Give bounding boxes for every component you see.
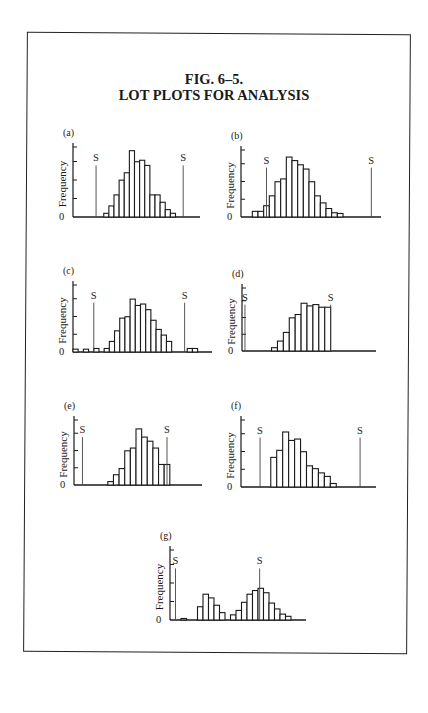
y-zero-label: 0 [59, 346, 64, 357]
histogram-bar [129, 151, 134, 217]
upper-spec-label: S [180, 152, 186, 163]
histogram-d: (d)Frequency0SS [225, 268, 380, 360]
histogram-bar [295, 439, 301, 487]
figure-title: LOT PLOTS FOR ANALYSIS [0, 86, 428, 104]
y-zero-label: 0 [227, 481, 232, 492]
histogram-bar [292, 161, 298, 217]
histogram-bar [275, 609, 281, 620]
histogram-bar [181, 619, 187, 621]
histogram-bar [124, 173, 129, 217]
histogram-bar [298, 165, 304, 217]
histogram-bar [231, 615, 237, 620]
histogram-bar [109, 206, 114, 217]
histogram-bar [313, 305, 319, 351]
lower-spec-label: S [173, 555, 179, 566]
histogram-bar [166, 341, 171, 352]
lower-spec-label: S [264, 155, 270, 166]
histogram-c: (c)Frequency0SS [56, 265, 216, 361]
histogram-bar [73, 349, 78, 352]
panel-label: (d) [232, 268, 244, 280]
histogram-bar [135, 305, 140, 352]
histogram-a: (a)Frequency0SS [54, 127, 204, 226]
upper-spec-label: S [368, 155, 374, 166]
lower-spec-label: S [242, 292, 248, 303]
histogram-g: (g)Frequency0SS [160, 530, 310, 629]
histogram-bar [315, 196, 321, 217]
histogram-bar [324, 476, 330, 487]
histogram-bar [214, 605, 220, 620]
histogram-bar [247, 594, 253, 620]
y-zero-label: 0 [228, 345, 233, 356]
histogram-bar [271, 457, 277, 487]
panel-label: (e) [64, 400, 75, 412]
upper-spec-label: S [328, 292, 334, 303]
histogram-bar [146, 310, 151, 352]
histogram-bar [272, 348, 278, 351]
histogram-bar [269, 603, 275, 620]
histogram-bar [153, 448, 159, 485]
histogram-bar [156, 329, 161, 352]
histogram-bar [283, 432, 289, 487]
histogram-bar [301, 303, 307, 351]
histogram-bar [275, 182, 281, 217]
histogram-bar [140, 160, 145, 217]
histogram-bar [119, 180, 124, 217]
histogram-bar [303, 169, 309, 217]
histogram-f: (f)Frequency0SS [225, 400, 380, 496]
histogram-bar [326, 209, 332, 217]
upper-spec-label: S [257, 555, 263, 566]
panel-label: (c) [63, 265, 74, 277]
histogram-bar [159, 464, 165, 485]
panel-label: (a) [63, 127, 74, 139]
histogram-bar [307, 306, 313, 351]
y-zero-label: 0 [60, 479, 65, 490]
histogram-bar [277, 341, 283, 351]
upper-spec-label: S [357, 425, 363, 436]
y-zero-label: 0 [59, 211, 64, 222]
panel-label: (g) [160, 530, 172, 542]
histogram-bar [115, 331, 120, 352]
y-axis-label: Frequency [56, 160, 68, 207]
histogram-bar [220, 613, 226, 620]
y-axis-label: Frequency [56, 297, 68, 344]
histogram-bar [147, 441, 153, 485]
y-axis-label: Frequency [57, 431, 69, 478]
histogram-e: (e)Frequency0SS [56, 400, 206, 494]
histogram-bar [337, 213, 343, 217]
histogram-bar [319, 307, 325, 351]
histogram-bar [301, 452, 307, 487]
histogram-bar [150, 195, 155, 217]
histogram-bar [320, 203, 326, 217]
lower-spec-label: S [79, 424, 85, 435]
lower-spec-label: S [91, 290, 97, 301]
histogram-bar [119, 469, 125, 485]
histogram-bar [286, 157, 292, 217]
histogram-bar [104, 213, 109, 217]
histogram-bar [155, 195, 160, 217]
histogram-bar [307, 466, 313, 487]
histogram-bar [170, 213, 175, 217]
histogram-bar [252, 211, 258, 217]
histogram-bar [145, 165, 150, 217]
histogram-bar [114, 195, 119, 217]
histogram-bar [108, 482, 114, 485]
panel-label: (b) [231, 130, 243, 142]
y-axis-label: Frequency [224, 162, 236, 209]
histogram-bar [295, 315, 301, 351]
panel-label: (f) [231, 400, 241, 412]
histogram-bar [332, 213, 338, 217]
histogram-bar [258, 211, 264, 217]
y-axis-label: Frequency [224, 432, 236, 479]
histogram-bar [203, 594, 209, 620]
histogram-bar [187, 348, 192, 352]
histogram-bar [130, 299, 135, 352]
histogram-bar [209, 598, 215, 620]
histogram-bar [280, 614, 286, 620]
histogram-bar [120, 318, 125, 352]
histogram-bar [192, 348, 197, 352]
histogram-bar [198, 607, 204, 620]
lower-spec-label: S [93, 152, 99, 163]
histogram-bar [125, 451, 131, 485]
histogram-bar [277, 450, 283, 487]
histogram-bar [289, 318, 295, 351]
